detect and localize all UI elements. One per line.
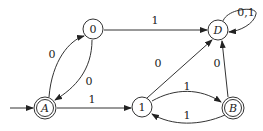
- svg-text:A: A: [40, 102, 49, 115]
- edge-label-B-D: 0: [214, 57, 221, 70]
- svg-text:B: B: [228, 102, 237, 115]
- edge-B-to-D: [222, 41, 228, 97]
- edge-1-to-B: [152, 91, 221, 102]
- svg-text:0: 0: [90, 23, 97, 36]
- node-D: D: [208, 20, 228, 40]
- automaton-diagram: 0 0 1 1 0 1 1 0 0,1 A 0 D 1 B: [0, 0, 263, 131]
- edge-label-A-0: 0: [49, 48, 56, 61]
- node-A: A: [34, 97, 56, 119]
- edge-label-B-1: 1: [184, 109, 191, 122]
- node-0: 0: [83, 19, 103, 39]
- svg-text:1: 1: [139, 101, 146, 114]
- edge-0-to-A: [55, 40, 92, 100]
- node-1: 1: [132, 97, 152, 117]
- edge-label-A-1: 1: [89, 93, 96, 106]
- svg-text:D: D: [213, 24, 223, 37]
- edge-A-to-0: [49, 36, 84, 97]
- edge-label-1-D: 0: [155, 57, 162, 70]
- edge-label-1-B: 1: [184, 80, 191, 93]
- edge-label-0-D: 1: [152, 14, 159, 27]
- edge-label-0-A: 0: [86, 75, 93, 88]
- edge-label-D-D: 0,1: [237, 6, 255, 19]
- node-B: B: [222, 97, 244, 119]
